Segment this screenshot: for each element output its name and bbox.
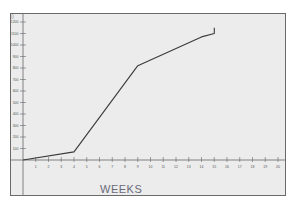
svg-text:400: 400 (13, 112, 19, 116)
y-axis-marker: ▯ (11, 13, 14, 19)
svg-text:3: 3 (60, 165, 62, 169)
svg-text:1000: 1000 (11, 43, 19, 47)
svg-text:800: 800 (13, 66, 19, 70)
svg-text:16: 16 (225, 165, 229, 169)
svg-text:1100: 1100 (11, 32, 19, 36)
svg-text:600: 600 (13, 89, 19, 93)
svg-text:11: 11 (161, 165, 165, 169)
y-axis-ticks: 100200300400500600700800900100011001200 (11, 20, 26, 151)
x-axis-label: WEEKS (100, 183, 142, 195)
svg-text:100: 100 (13, 147, 19, 151)
svg-text:300: 300 (13, 124, 19, 128)
svg-text:1: 1 (35, 165, 37, 169)
svg-text:10: 10 (149, 165, 153, 169)
svg-text:900: 900 (13, 55, 19, 59)
data-line (23, 28, 214, 160)
svg-text:700: 700 (13, 78, 19, 82)
svg-text:14: 14 (200, 165, 204, 169)
svg-text:5: 5 (86, 165, 88, 169)
svg-text:20: 20 (276, 165, 280, 169)
svg-text:4: 4 (73, 165, 75, 169)
svg-text:15: 15 (212, 165, 216, 169)
svg-text:500: 500 (13, 101, 19, 105)
svg-text:200: 200 (13, 135, 19, 139)
svg-text:7: 7 (111, 165, 113, 169)
svg-text:1200: 1200 (11, 20, 19, 24)
svg-text:18: 18 (251, 165, 255, 169)
svg-text:17: 17 (238, 165, 242, 169)
line-chart: 1234567891011121314151617181920 10020030… (0, 0, 298, 209)
x-axis-ticks: 1234567891011121314151617181920 (35, 157, 280, 169)
svg-text:2: 2 (48, 165, 50, 169)
svg-text:8: 8 (124, 165, 126, 169)
svg-text:12: 12 (174, 165, 178, 169)
svg-text:13: 13 (187, 165, 191, 169)
svg-text:9: 9 (137, 165, 139, 169)
svg-text:6: 6 (99, 165, 101, 169)
svg-text:19: 19 (263, 165, 267, 169)
